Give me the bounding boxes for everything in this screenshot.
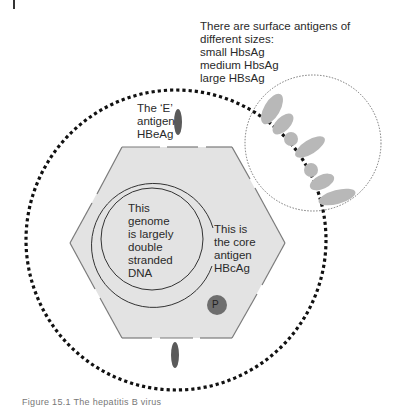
label-line: the core: [214, 236, 256, 249]
e-antigen-bottom: [171, 342, 179, 368]
surface-antigen-label: There are surface antigens of different …: [200, 20, 350, 85]
surface-antigens: [257, 90, 358, 208]
label-line: double: [128, 241, 173, 254]
label-line: large HBsAg: [200, 72, 350, 85]
label-line: antigen: [137, 115, 175, 128]
e-antigen-top: [174, 109, 182, 135]
label-line: different sizes:: [200, 33, 350, 46]
polymerase-label: P: [212, 298, 219, 311]
label-line: HBeAg: [137, 128, 175, 141]
label-line: medium HbsAg: [200, 59, 350, 72]
label-line: DNA: [128, 267, 173, 280]
label-line: antigen: [214, 249, 256, 262]
small-hbsag: [304, 163, 318, 177]
label-line: This is: [214, 223, 256, 236]
label-line: The ‘E’: [137, 102, 175, 115]
label-line: This: [128, 202, 173, 215]
label-line: There are surface antigens of: [200, 20, 350, 33]
label-line: HBcAg: [214, 262, 256, 275]
e-antigen-label: The ‘E’ antigen HBeAg: [137, 102, 175, 141]
label-line: small HbsAg: [200, 46, 350, 59]
small-hbsag: [284, 132, 298, 146]
core-antigen-label: This is the core antigen HBcAg: [214, 223, 256, 275]
genome-label: This genome is largely double stranded D…: [128, 202, 173, 280]
label-line: genome: [128, 215, 173, 228]
label-line: is largely: [128, 228, 173, 241]
figure-caption: Figure 15.1 The hepatitis B virus: [22, 397, 161, 407]
label-line: stranded: [128, 254, 173, 267]
